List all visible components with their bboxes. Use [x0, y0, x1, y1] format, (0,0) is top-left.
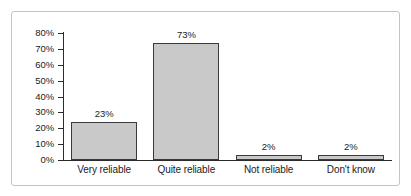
y-axis-tick-label: 20%: [18, 123, 54, 133]
y-axis-tick-mark: [58, 160, 63, 161]
y-axis-tick-mark: [58, 65, 63, 66]
bar: [153, 43, 219, 160]
x-axis-category-label: Not reliable: [224, 164, 314, 176]
y-axis-tick-label-text: 70%: [22, 44, 54, 54]
y-axis-tick-label: 0%: [18, 155, 54, 165]
bar: [71, 122, 137, 160]
y-axis-tick-label: 40%: [18, 92, 54, 102]
y-axis-tick-label: 10%: [18, 139, 54, 149]
y-axis-tick-mark: [58, 33, 63, 34]
y-axis-tick-label-text: 80%: [22, 28, 54, 38]
y-axis-tick-label-text: 50%: [22, 76, 54, 86]
y-axis-tick-label: 70%: [18, 44, 54, 54]
y-axis-tick-mark: [58, 144, 63, 145]
y-axis-tick-label-text: 40%: [22, 92, 54, 102]
y-axis-tick-mark: [58, 97, 63, 98]
y-axis-tick-label-text: 30%: [22, 107, 54, 117]
y-axis-line: [63, 32, 64, 161]
bar: [318, 155, 384, 160]
bar-value-label: 2%: [321, 141, 381, 152]
y-axis-tick-label-text: 0%: [22, 155, 54, 165]
y-axis-tick-label-text: 60%: [22, 60, 54, 70]
y-axis-tick-label-text: 10%: [22, 139, 54, 149]
chart-figure: 0%10%20%30%40%50%60%70%80% 23%73%2%2% Ve…: [0, 0, 411, 196]
plot-area: 0%10%20%30%40%50%60%70%80% 23%73%2%2% Ve…: [0, 0, 411, 196]
y-axis-tick-label: 50%: [18, 76, 54, 86]
y-axis-tick-mark: [58, 112, 63, 113]
y-axis-tick-label: 80%: [18, 28, 54, 38]
y-axis-tick-label: 30%: [18, 107, 54, 117]
x-axis-category-label: Don't know: [306, 164, 396, 176]
y-axis-tick-label: 60%: [18, 60, 54, 70]
bar-value-label: 73%: [156, 29, 216, 40]
y-axis-tick-label-text: 20%: [22, 123, 54, 133]
y-axis-tick-mark: [58, 81, 63, 82]
y-axis-tick-mark: [58, 49, 63, 50]
x-axis-category-label: Very reliable: [59, 164, 149, 176]
bar-value-label: 23%: [74, 108, 134, 119]
bar: [236, 155, 302, 160]
bar-value-label: 2%: [239, 141, 299, 152]
y-axis-tick-mark: [58, 128, 63, 129]
x-axis-category-label: Quite reliable: [141, 164, 231, 176]
